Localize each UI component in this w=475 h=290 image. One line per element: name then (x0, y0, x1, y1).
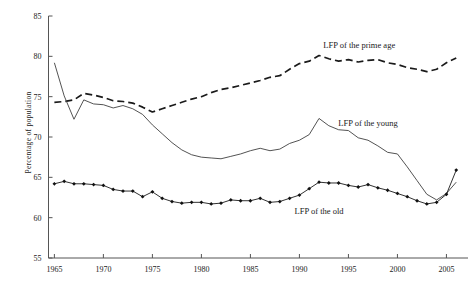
series-marker-2 (170, 200, 174, 204)
series-marker-2 (268, 200, 272, 204)
series-marker-2 (454, 168, 458, 172)
x-tick-label: 1980 (193, 265, 209, 274)
x-tick-label: 1985 (242, 265, 258, 274)
y-tick-label: 65 (34, 173, 42, 182)
series-marker-2 (405, 195, 409, 199)
series-annotation-1: LFP of the young (338, 118, 398, 128)
x-tick-label: 1995 (340, 265, 356, 274)
series-marker-2 (190, 200, 194, 204)
series-marker-2 (376, 186, 380, 190)
series-marker-2 (101, 184, 105, 188)
y-tick-label: 55 (34, 254, 42, 263)
series-annotation-2: LFP of the old (294, 206, 344, 216)
series-marker-2 (356, 185, 360, 189)
y-tick-label: 60 (34, 214, 42, 223)
x-tick-label: 1975 (144, 265, 160, 274)
series-marker-2 (396, 192, 400, 196)
series-marker-2 (131, 189, 135, 193)
series-marker-2 (92, 183, 96, 187)
series-marker-2 (366, 183, 370, 187)
series-marker-2 (288, 196, 292, 200)
series-line-0 (54, 56, 456, 112)
series-marker-2 (209, 202, 213, 206)
series-marker-2 (239, 199, 243, 203)
chart-container: Percentage of population 556065707580851… (0, 0, 475, 290)
series-annotation-0: LFP of the prime age (323, 40, 395, 50)
series-marker-2 (249, 199, 253, 203)
series-marker-2 (62, 179, 66, 183)
x-tick-label: 2000 (389, 265, 405, 274)
series-marker-2 (121, 189, 125, 193)
x-tick-label: 2005 (438, 265, 454, 274)
series-marker-2 (278, 200, 282, 204)
series-marker-2 (425, 202, 429, 206)
series-marker-2 (200, 200, 204, 204)
y-tick-label: 85 (34, 12, 42, 21)
series-marker-2 (347, 184, 351, 188)
y-tick-label: 70 (34, 133, 42, 142)
series-marker-2 (258, 196, 262, 200)
series-marker-2 (327, 181, 331, 185)
series-line-1 (54, 63, 456, 200)
series-marker-2 (180, 201, 184, 205)
series-line-2 (54, 170, 456, 204)
series-marker-2 (111, 188, 115, 192)
series-marker-2 (386, 188, 390, 192)
y-tick-label: 75 (34, 93, 42, 102)
series-marker-2 (72, 182, 76, 186)
series-marker-2 (141, 195, 145, 199)
series-marker-2 (229, 198, 233, 202)
series-marker-2 (219, 201, 223, 205)
x-tick-label: 1970 (95, 265, 111, 274)
series-marker-2 (52, 182, 56, 186)
series-marker-2 (82, 182, 86, 186)
series-marker-2 (415, 199, 419, 203)
lfp-line-chart: 5560657075808519651970197519801985199019… (0, 0, 475, 290)
series-marker-2 (337, 181, 341, 185)
x-tick-label: 1990 (291, 265, 307, 274)
y-tick-label: 80 (34, 52, 42, 61)
x-tick-label: 1965 (46, 265, 62, 274)
